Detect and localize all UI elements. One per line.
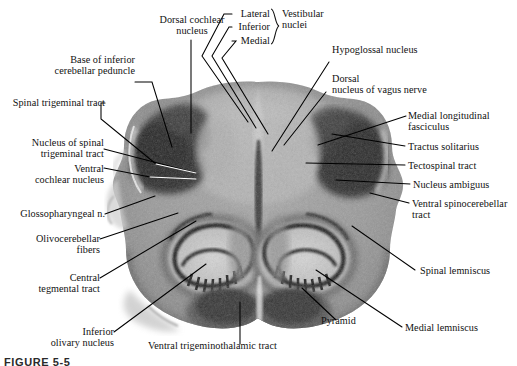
label-tractus-solitarius: Tractus solitarius <box>408 141 516 152</box>
label-ventral-cochlear-nucleus: Ventral cochlear nucleus <box>0 163 104 186</box>
label-olivocerebellar-fibers: Olivocerebellar fibers <box>0 233 100 256</box>
label-medial-longitudinal-fasciculus: Medial longitudinal fasciculus <box>408 110 517 133</box>
label-ventral-spinocerebellar-tract: Ventral spinocerebellar tract <box>412 198 517 221</box>
label-vestibular-inferior: Inferior <box>216 21 270 32</box>
label-inferior-olivary-nucleus: Inferior olivary nucleus <box>0 326 114 349</box>
label-tectospinal-tract: Tectospinal tract <box>408 160 516 171</box>
label-nucleus-ambiguus: Nucleus ambiguus <box>413 179 517 190</box>
label-glossopharyngeal-n: Glossopharyngeal n. <box>0 208 105 219</box>
anatomy-figure: Dorsal cochlear nucleus Lateral Inferior… <box>0 0 517 366</box>
label-base-inferior-cerebellar-peduncle: Base of inferior cerebellar peduncle <box>0 54 135 77</box>
label-pyramid: Pyramid <box>321 315 391 326</box>
label-vestibular-nuclei-group: Vestibular nuclei <box>282 8 372 31</box>
label-hypoglossal-nucleus: Hypoglossal nucleus <box>332 44 472 55</box>
label-vestibular-medial: Medial <box>216 35 270 46</box>
label-spinal-trigeminal-tract: Spinal trigeminal tract <box>0 97 105 108</box>
label-medial-lemniscus: Medial lemniscus <box>405 322 509 333</box>
label-central-tegmental-tract: Central tegmental tract <box>0 272 100 295</box>
label-vestibular-lateral: Lateral <box>216 8 270 19</box>
label-dorsal-nucleus-vagus-nerve: Dorsal nucleus of vagus nerve <box>332 73 482 96</box>
label-ventral-trigeminothalamic-tract: Ventral trigeminothalamic tract <box>148 340 358 351</box>
label-nucleus-spinal-trigeminal-tract: Nucleus of spinal trigeminal tract <box>0 137 104 160</box>
figure-caption: FIGURE 5-5 <box>4 356 71 366</box>
label-spinal-lemniscus: Spinal lemniscus <box>420 265 517 276</box>
